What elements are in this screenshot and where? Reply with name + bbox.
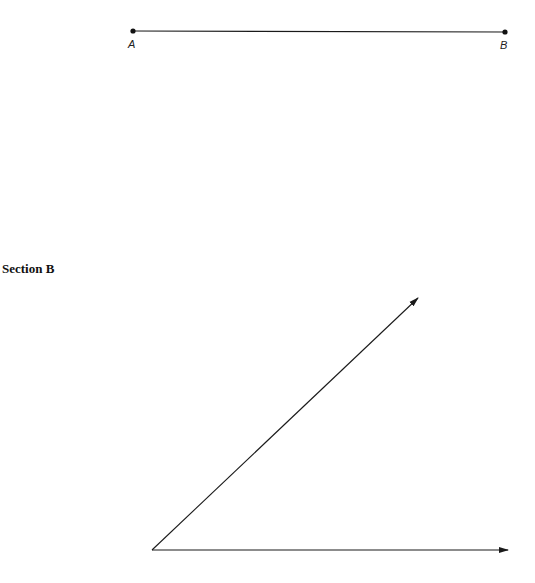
angle-figure <box>152 298 508 550</box>
line-segment-ab <box>130 28 507 34</box>
point-b-dot <box>502 29 507 34</box>
point-a-label: A <box>128 39 135 50</box>
section-b-heading: Section B <box>2 262 54 275</box>
point-b-label: B <box>500 40 507 51</box>
slanted-ray <box>152 298 418 550</box>
point-a-dot <box>130 28 135 33</box>
diagram-canvas <box>0 0 535 583</box>
